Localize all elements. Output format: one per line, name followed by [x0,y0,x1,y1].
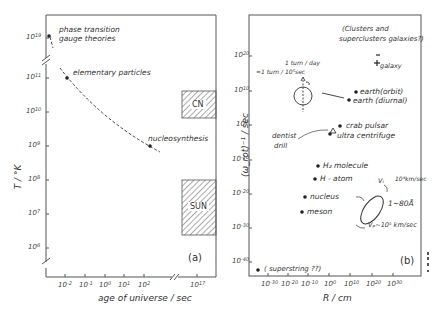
panel-b-ytick: 10-30 [232,224,249,231]
panel-b-xtick: 1020 [366,281,381,288]
panel-a-ytick: 106 [28,244,40,251]
label-earth-diurnal: earth (diurnal) [353,97,407,105]
panel-b-ylabel: (ω_rot)⁻¹ / sec [240,100,250,190]
panel-b-xtick: 100 [324,281,336,288]
label-nucleosynthesis: nucleosynthesis [148,135,208,143]
panel-b-xtick: 1030 [387,281,402,288]
panel-b-ytick: 1020 [234,52,249,59]
panel-b-ytick: 10-10 [232,156,249,163]
panel-a-xtick: 1017 [190,282,205,289]
label-vt-value: 10⁴km/sec [395,176,427,182]
panel-a-xlabel: age of universe / sec [98,293,192,303]
point-elementary-particles [65,76,69,80]
label-size: 1~80Å [388,200,414,208]
label-turn-sec: ≈1 turn / 10⁵sec [256,69,305,75]
label-vp: Vₚ~10⁵ km/sec [368,222,417,229]
label-galaxy: galaxy [380,63,402,70]
edge-marks [427,252,429,272]
label-clusters: (Clusters and [342,26,389,33]
label-superclusters: superclusters galaxies?) [339,36,424,43]
point-phase-transition [47,34,51,38]
label-h2-molecule: H₂ molecule [323,162,368,170]
figure-canvas [0,0,441,312]
panel-a-ytick: 109 [28,142,40,149]
label-crab-pulsar: crab pulsar [346,122,388,130]
panel-a-ytick: 107 [28,210,40,217]
label-vt: Vₜ [378,178,384,185]
dentist-arrow [298,130,328,139]
label-dentist: dentist [272,133,296,140]
panel-a-xtick: 100 [99,282,111,289]
label-ultra-centrifuge: ultra centrifuge [337,132,395,140]
panel-a-xtick: 101 [118,282,130,289]
panel-a-ytick: 1019 [26,34,41,41]
panel-a-ytick: 108 [28,176,40,183]
label-gauge-theories: gauge theories [59,35,115,43]
panel-a-ylabel: T / °K [13,157,23,197]
label-turn-day: 1 turn / day [285,60,320,66]
label-h-atom: H - atom [320,175,353,183]
panel-b-ytick: 10-40 [232,258,249,265]
label-superstring: ( superstring ??) [264,266,321,273]
panel-a-xtick: 10-1 [79,282,93,289]
panel-b-ytick: 100 [236,121,248,128]
panel-a-frame [42,15,216,280]
panel-b-xlabel: R / cm [323,293,352,303]
panel-b-ytick: 1010 [234,87,249,94]
panel-b-ytick: 10-20 [232,190,249,197]
label-sun: SUN [188,202,209,211]
panel-b-xtick: 1010 [344,281,359,288]
panel-b-xtick: 10-30 [261,281,278,288]
panel-a-xtick: 102 [138,282,150,289]
panel-a-ytick: 1011 [26,74,41,81]
label-drill: drill [274,143,287,150]
cooling-curve [50,37,160,152]
label-phase-transition: phase transition [59,26,120,34]
label-earth-orbit: earth(orbit) [360,88,403,96]
label-elementary-particles: elementary particles [73,69,151,77]
dentist-drill-marker [330,128,336,133]
panel-b-tag: (b) [400,255,414,266]
earth-rotation-sketch [294,77,344,112]
panel-a-ytick: 1010 [26,108,41,115]
label-meson: meson [307,208,332,216]
panel-a-xtick: 10-2 [58,282,72,289]
panel-a-tag: (a) [188,252,202,263]
label-nucleus: nucleus [310,193,339,201]
label-cn: CN [190,100,206,109]
point-nucleosynthesis [148,144,152,148]
panel-b-xtick: 10-10 [301,281,318,288]
panel-b-xtick: 10-20 [281,281,298,288]
